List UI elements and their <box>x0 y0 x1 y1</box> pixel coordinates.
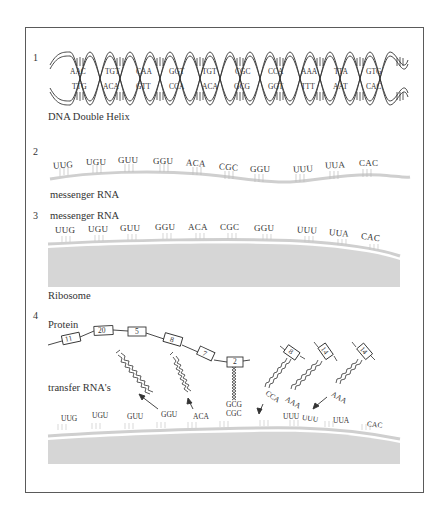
trna-anticodon: GCG <box>226 400 242 409</box>
mrna-codon: GUU <box>127 412 143 421</box>
mrna-codon: UGU <box>92 411 108 420</box>
mrna-codon: UUA <box>333 416 349 425</box>
mrna-codon: CGC <box>226 409 241 418</box>
mrna-codon: UUG <box>61 414 77 423</box>
mrna-codon: GGU <box>161 410 177 419</box>
transfer-rnas-label: transfer RNA's <box>48 382 111 393</box>
mrna-codon: UUU <box>283 412 299 421</box>
amino-acid-11: 11 <box>64 333 73 343</box>
translation-diagram <box>0 0 448 515</box>
amino-acid-2: 2 <box>233 357 237 366</box>
amino-acid-20: 20 <box>98 326 106 335</box>
mrna-codon: CAC <box>367 419 383 430</box>
amino-acid-5: 5 <box>135 327 139 336</box>
mrna-codon: ACA <box>193 412 209 421</box>
